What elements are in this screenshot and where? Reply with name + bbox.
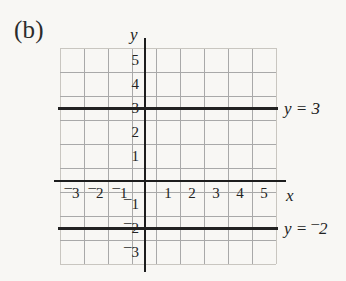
x-axis-label: x	[286, 187, 294, 204]
tick-label: –3	[65, 186, 80, 201]
tick-label: 4	[236, 186, 244, 201]
tick-label: –2	[124, 221, 139, 236]
equation-lhs: y	[284, 219, 292, 238]
gridline-horizontal	[60, 216, 276, 217]
gridline-vertical	[228, 48, 229, 264]
gridline-vertical	[276, 48, 277, 264]
gridline-vertical	[156, 48, 157, 264]
tick-label: 1	[164, 186, 172, 201]
gridline-horizontal	[60, 240, 276, 241]
gridline-vertical	[60, 48, 61, 264]
function-line	[58, 107, 278, 110]
tick-label: –2	[89, 186, 104, 201]
tick-label: 3	[212, 186, 220, 201]
y-axis	[144, 38, 146, 272]
tick-label: 5	[132, 53, 140, 68]
gridline-horizontal	[60, 168, 276, 169]
panel-label: (b)	[14, 17, 44, 42]
tick-label: 3	[132, 101, 140, 116]
gridline-horizontal	[60, 72, 276, 73]
gridline-horizontal	[60, 264, 276, 265]
gridline-horizontal	[60, 144, 276, 145]
gridline-vertical	[108, 48, 109, 264]
tick-label: 2	[132, 125, 140, 140]
tick-label: 4	[132, 77, 140, 92]
gridline-horizontal	[60, 48, 276, 49]
gridline-vertical	[204, 48, 205, 264]
tick-label: 2	[188, 186, 196, 201]
gridline-horizontal	[60, 120, 276, 121]
gridline-horizontal	[60, 96, 276, 97]
equation-value: 2	[319, 219, 328, 238]
equation-label-y-equals-neg-2: y = –2	[284, 220, 328, 237]
tick-label: 1	[132, 149, 140, 164]
gridline-vertical	[180, 48, 181, 264]
plot-area	[60, 48, 276, 264]
equation-value: 3	[312, 99, 321, 118]
equation-operator: =	[296, 99, 307, 118]
equation-label-y-equals-3: y = 3	[284, 100, 320, 117]
equation-operator: =	[296, 219, 307, 238]
gridline-vertical	[84, 48, 85, 264]
tick-label: –1	[124, 197, 139, 212]
tick-label: –3	[124, 245, 139, 260]
gridline-vertical	[252, 48, 253, 264]
graph-figure: (b) y x y = 3 y = –2 –3–2–11234554321–1–…	[0, 0, 346, 281]
y-axis-label: y	[130, 26, 138, 43]
function-line	[58, 227, 278, 230]
tick-label: 5	[260, 186, 268, 201]
equation-lhs: y	[284, 99, 292, 118]
